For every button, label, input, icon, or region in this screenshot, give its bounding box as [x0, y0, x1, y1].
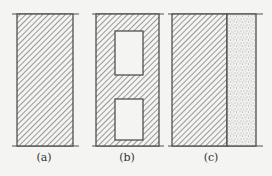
label-b: (b)	[107, 151, 147, 164]
panel-a	[12, 14, 79, 146]
hatched-wall-c	[172, 14, 227, 146]
panel-b	[92, 14, 164, 146]
void-lower-b	[115, 99, 143, 140]
wall-sections-diagram	[0, 0, 272, 176]
label-a: (a)	[24, 151, 64, 164]
void-upper-b	[115, 31, 143, 75]
panel-c	[168, 14, 263, 146]
stippled-layer-c	[227, 14, 256, 146]
hatched-wall-a	[17, 14, 73, 146]
label-c: (c)	[191, 151, 231, 164]
